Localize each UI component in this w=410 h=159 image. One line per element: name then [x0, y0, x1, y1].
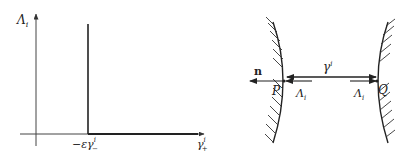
contact-diagram: n γi P Q Λi Λi — [250, 17, 395, 143]
x-axis-label: γi+ — [197, 136, 208, 153]
normal-label: n — [254, 65, 262, 78]
figure-canvas: Λi −εγi− γi+ — [0, 0, 410, 159]
gap-label: γi — [323, 60, 332, 74]
complementarity-graph: Λi −εγi− γi+ — [16, 13, 208, 153]
right-wall-hatching — [378, 19, 395, 137]
force-right-label: Λi — [353, 87, 364, 102]
y-axis-label: Λi — [16, 13, 29, 29]
left-wall-hatching — [265, 17, 283, 142]
point-q-label: Q — [378, 83, 388, 97]
point-p — [282, 79, 285, 82]
x-tick-label: −εγi− — [72, 136, 98, 153]
force-left-label: Λi — [295, 87, 306, 102]
point-p-label: P — [271, 84, 281, 98]
